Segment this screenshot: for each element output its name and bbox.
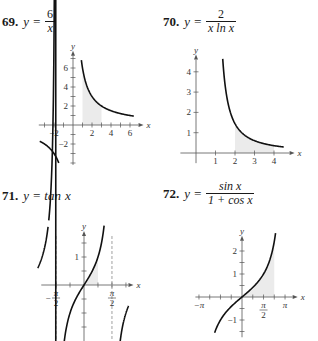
y-tick-label: −1 [227, 315, 237, 325]
x-axis-arrow-icon [293, 295, 298, 299]
y-tick-label: 2 [233, 246, 238, 256]
shaded-area [242, 241, 274, 297]
graph-72: xy−ππ2π21−1 [0, 0, 318, 341]
x-tick-label: −π [194, 300, 205, 310]
svg-text:2: 2 [261, 310, 266, 320]
x-tick-label: π [261, 300, 266, 310]
y-axis-arrow-icon [240, 236, 244, 241]
y-axis-label: y [239, 226, 244, 236]
y-tick-label: 1 [233, 269, 238, 279]
x-axis-label: x [300, 292, 305, 302]
x-tick-label: π [283, 300, 288, 310]
